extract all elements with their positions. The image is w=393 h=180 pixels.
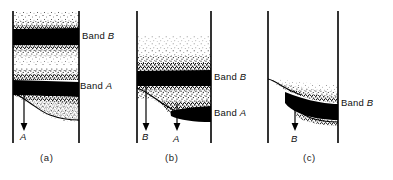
panel-a-column-contents: [13, 11, 79, 122]
panel-b-band-b-shape: [137, 70, 211, 88]
panel-a-band-b-shape: [13, 28, 79, 46]
panel-a-band-b-label: Band B: [82, 30, 114, 41]
panel-c-drawing: [255, 0, 393, 180]
panel-b: Band B Band A B A (b): [130, 0, 270, 180]
panel-b-band-b-label: Band B: [214, 71, 246, 82]
panel-a-band-a-shape: [13, 80, 79, 97]
panel-a-arrow-a-label: A: [20, 131, 26, 142]
panel-a: Band B Band A A (a): [0, 0, 140, 180]
panel-b-arrow-b-label: B: [142, 131, 148, 142]
panel-c-caption: (c): [303, 152, 316, 163]
panel-b-arrow-a-label: A: [173, 133, 179, 144]
panel-b-caption: (b): [165, 152, 178, 163]
panel-c: Band B B (c): [255, 0, 393, 180]
panel-a-band-a-label: Band A: [80, 80, 112, 91]
panel-c-arrow-b-label: B: [291, 133, 297, 144]
panel-b-band-a-label: Band A: [214, 107, 246, 118]
panel-c-band-b-label: Band B: [341, 97, 373, 108]
panel-b-drawing: [130, 0, 270, 180]
panel-a-drawing: [0, 0, 140, 180]
panel-b-column-contents: [137, 36, 211, 122]
panel-a-caption: (a): [40, 152, 53, 163]
panel-c-column-contents: [268, 79, 338, 126]
chromatography-band-figure: Band B Band A A (a): [0, 0, 393, 180]
